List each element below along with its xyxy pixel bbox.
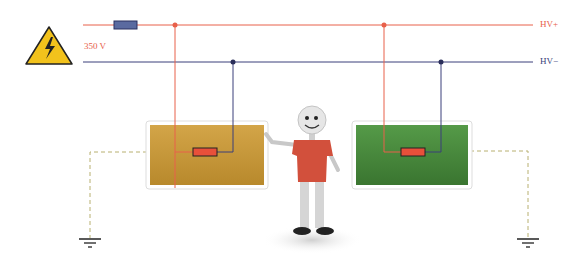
left-resistor (193, 148, 217, 156)
voltage-label: 350 V (84, 41, 106, 51)
ground-wire-right (470, 151, 539, 247)
person-figure (262, 106, 362, 254)
right-resistor (401, 148, 425, 156)
ground-wire-left (79, 152, 147, 247)
hv-minus-label: HV− (540, 56, 558, 66)
fuse-icon (114, 21, 137, 29)
high-voltage-warning-icon (26, 27, 72, 64)
hv-plus-label: HV+ (540, 19, 558, 29)
